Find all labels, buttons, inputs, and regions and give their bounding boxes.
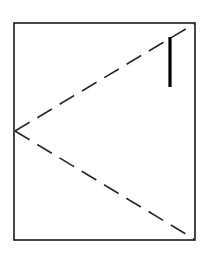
diagram-svg [0, 0, 210, 261]
diagram-canvas [0, 0, 210, 261]
paper-sheet-outline [14, 23, 195, 240]
